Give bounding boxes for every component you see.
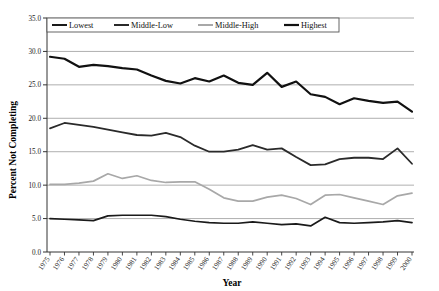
x-tick-label: 1996 (341, 255, 356, 272)
series-line-middle-low (50, 123, 412, 165)
x-tick-label: 1992 (283, 255, 298, 272)
x-tick-label: 1998 (370, 255, 385, 272)
axes (47, 18, 414, 252)
x-tick-label: 1986 (196, 255, 211, 272)
x-tick-label: 1982 (138, 255, 153, 272)
x-tick-label: 2000 (399, 255, 414, 272)
y-axis-ticks: 0.05.010.015.020.025.030.035.0 (28, 15, 47, 257)
series-line-highest (50, 57, 412, 112)
x-tick-label: 1985 (182, 255, 197, 272)
y-tick-label: 5.0 (32, 215, 41, 223)
x-tick-label: 1983 (153, 255, 168, 272)
x-tick-label: 1977 (66, 255, 81, 272)
y-tick-label: 30.0 (28, 48, 41, 56)
chart-legend: LowestMiddle-LowMiddle-HighHighest (47, 18, 339, 32)
y-axis-title: Percent Not Completing (8, 101, 18, 199)
x-tick-label: 1984 (167, 255, 182, 272)
x-tick-label: 1975 (37, 255, 52, 272)
x-tick-label: 1991 (269, 255, 284, 272)
x-tick-label: 1989 (240, 255, 255, 272)
cropped-title-fragment (0, 0, 439, 9)
legend-label-middle-high: Middle-High (215, 21, 259, 30)
x-tick-label: 1997 (355, 255, 370, 272)
x-tick-label: 1978 (80, 255, 95, 272)
x-axis-title: Year (223, 278, 243, 288)
x-tick-label: 1981 (124, 255, 139, 272)
chart-container: 0.05.010.015.020.025.030.035.0 197519761… (0, 0, 439, 291)
x-tick-label: 1988 (225, 255, 240, 272)
x-axis-ticks: 1975197619771978197919801981198219831984… (37, 252, 414, 272)
x-tick-label: 1987 (211, 255, 226, 272)
y-tick-label: 35.0 (28, 15, 41, 23)
legend-label-highest: Highest (301, 21, 328, 30)
x-tick-label: 1995 (326, 255, 341, 272)
gridlines (47, 18, 414, 219)
y-tick-label: 15.0 (28, 148, 41, 156)
x-tick-label: 1990 (254, 255, 269, 272)
series-line-middle-high (50, 174, 412, 205)
x-tick-label: 1980 (109, 255, 124, 272)
series-line-lowest (50, 215, 412, 226)
x-tick-label: 1994 (312, 255, 327, 272)
y-tick-label: 0.0 (32, 249, 41, 257)
legend-label-lowest: Lowest (69, 21, 94, 30)
x-tick-label: 1976 (51, 255, 66, 272)
data-series-group (50, 57, 412, 226)
y-tick-label: 20.0 (28, 115, 41, 123)
y-tick-label: 25.0 (28, 81, 41, 89)
y-tick-label: 10.0 (28, 182, 41, 190)
legend-label-middle-low: Middle-Low (131, 21, 173, 30)
x-tick-label: 1979 (95, 255, 110, 272)
x-tick-label: 1993 (297, 255, 312, 272)
line-chart: 0.05.010.015.020.025.030.035.0 197519761… (0, 0, 439, 291)
x-tick-label: 1999 (384, 255, 399, 272)
